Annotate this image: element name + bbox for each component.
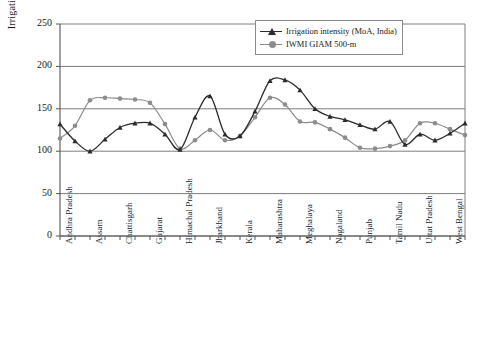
plot-area — [0, 0, 487, 339]
data-point-marker — [328, 127, 333, 132]
data-point-marker — [133, 97, 138, 102]
data-point-marker — [223, 138, 228, 143]
data-point-marker — [433, 121, 438, 126]
chart-legend: Irrigation intensity (MoA, India)IWMI GI… — [255, 20, 403, 55]
series-2 — [58, 95, 468, 150]
data-point-marker — [462, 121, 467, 126]
data-point-marker — [57, 121, 62, 126]
legend-item-2: IWMI GIAM 500-m — [260, 38, 397, 50]
legend-circle-icon — [260, 39, 282, 49]
legend-triangle-icon — [260, 26, 282, 36]
data-point-marker — [88, 98, 93, 103]
chart-container: Irrigation intensity 250200150100500 And… — [0, 0, 487, 339]
data-point-marker — [358, 146, 363, 151]
data-point-marker — [373, 146, 378, 151]
data-point-marker — [418, 121, 423, 126]
data-point-marker — [192, 115, 197, 120]
data-point-marker — [463, 133, 468, 138]
data-point-marker — [313, 120, 318, 125]
data-point-marker — [163, 122, 168, 127]
data-point-marker — [343, 135, 348, 140]
legend-label: IWMI GIAM 500-m — [286, 39, 356, 49]
legend-label: Irrigation intensity (MoA, India) — [286, 26, 397, 36]
data-point-marker — [222, 132, 227, 137]
data-point-marker — [298, 119, 303, 124]
data-point-marker — [252, 109, 257, 114]
data-point-marker — [148, 101, 153, 106]
data-point-marker — [118, 96, 123, 101]
data-point-marker — [403, 138, 408, 143]
data-point-marker — [447, 131, 452, 136]
data-point-marker — [448, 127, 453, 132]
data-point-marker — [103, 95, 108, 100]
data-point-marker — [58, 136, 63, 141]
legend-item-1: Irrigation intensity (MoA, India) — [260, 25, 397, 37]
data-point-marker — [268, 95, 273, 100]
data-point-marker — [73, 123, 78, 128]
data-point-marker — [208, 128, 213, 133]
data-point-marker — [283, 102, 288, 107]
data-point-marker — [193, 138, 198, 143]
data-point-marker — [388, 144, 393, 149]
